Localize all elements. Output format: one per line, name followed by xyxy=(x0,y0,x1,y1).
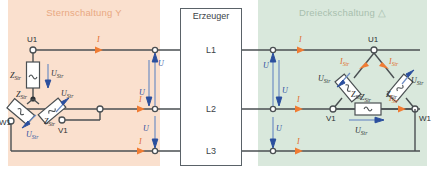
star-node-l2 xyxy=(97,106,103,112)
star-wire-left-a xyxy=(27,99,33,104)
delta-line-current-label-l1: I xyxy=(298,35,302,44)
delta-voltage-arrow-2-head xyxy=(276,97,282,106)
star-voltage-arrow-1-head xyxy=(152,53,158,62)
delta-ustr-arrow-bottom-head xyxy=(375,117,384,123)
star-terminal-label-w1: W1 xyxy=(0,118,12,127)
star-line-voltage-label-1: U xyxy=(158,59,165,68)
star-voltage-node-l2 xyxy=(152,106,157,111)
star-terminal-v1-node xyxy=(59,117,65,123)
delta-voltage-arrow-3-head xyxy=(270,139,276,148)
delta-terminal-label-u1: U1 xyxy=(368,35,379,44)
delta-voltage-node-l2 xyxy=(270,106,275,111)
delta-voltage-arrow-1-head xyxy=(270,53,276,62)
star-impedance-label-left: ZStr xyxy=(16,90,28,100)
delta-terminal-label-v1: V1 xyxy=(326,114,336,123)
delta-phase-current-arrow-right xyxy=(379,62,389,69)
star-voltage-arrow-3-head xyxy=(152,139,158,148)
star-ustr-arrow-top-head xyxy=(45,80,51,88)
star-phase-voltage-label-top: UStr xyxy=(51,69,64,79)
star-impedance-label-top: ZStr xyxy=(10,71,22,81)
delta-line-current-arrow-l1 xyxy=(297,47,305,54)
star-line-current-arrow-l2 xyxy=(137,106,145,113)
star-line-current-label-l3: I xyxy=(138,137,142,146)
delta-terminal-u1-node xyxy=(371,47,377,53)
delta-line-current-arrow-l3 xyxy=(295,148,303,155)
bus-lines xyxy=(11,50,420,151)
delta-terminal-v1-node xyxy=(330,106,336,112)
delta-phase-current-label-right: IStr xyxy=(388,57,399,67)
star-terminal-label-v1: V1 xyxy=(58,126,68,135)
delta-impedance-label-bottom: ZStr xyxy=(360,93,372,103)
delta-phase-voltage-label-bottom: UStr xyxy=(355,126,368,136)
star-wire-right-a xyxy=(33,99,39,104)
star-line-current-arrow-l1 xyxy=(95,47,103,54)
delta-line-current-label-l3: I xyxy=(296,137,300,146)
star-line-voltage-label-2: U xyxy=(139,88,146,97)
figure-canvas: Sternschaltung Y Dreieckschaltung △ Erze… xyxy=(0,0,435,181)
star-phase-voltage-label-left: UStr xyxy=(26,130,39,140)
delta-line-voltage-label-3: U xyxy=(276,124,283,133)
star-terminal-u1-node xyxy=(30,47,36,53)
star-line-current-arrow-l3 xyxy=(137,148,145,155)
star-voltage-arrow-2-head xyxy=(146,97,152,106)
delta-terminal-label-w1: W1 xyxy=(419,114,432,123)
delta-line-current-label-l2: I xyxy=(296,95,300,104)
star-phase-voltage-label-right: UStr xyxy=(61,89,74,99)
star-ustr-arrow-right-head xyxy=(61,98,69,105)
star-impedance-top-body xyxy=(27,62,40,88)
delta-phase-current-arrow-bottom xyxy=(398,106,406,113)
delta-phase-voltage-label-left: UStr xyxy=(318,74,331,84)
delta-phase-current-label-left: IStr xyxy=(339,57,350,67)
delta-phase-current-arrow-left xyxy=(359,62,369,69)
delta-line-voltage-label-1: U xyxy=(263,61,270,70)
star-terminal-label-u1: U1 xyxy=(27,35,38,44)
delta-line-voltage-label-2: U xyxy=(282,86,289,95)
delta-line-current-arrow-l2 xyxy=(295,106,303,113)
star-line-current-label-l1: I xyxy=(96,35,100,44)
circuit-diagram: U1 V1 W1 ZStr ZStr ZStr UStr UStr UStr I… xyxy=(0,0,435,181)
delta-circuit: U U U I I I U1 xyxy=(263,35,432,155)
star-circuit: U1 V1 W1 ZStr ZStr ZStr UStr UStr UStr I… xyxy=(0,35,165,155)
delta-phase-voltage-label-right: UStr xyxy=(411,76,424,86)
caption-strip xyxy=(0,167,435,181)
star-line-voltage-label-3: U xyxy=(143,124,150,133)
